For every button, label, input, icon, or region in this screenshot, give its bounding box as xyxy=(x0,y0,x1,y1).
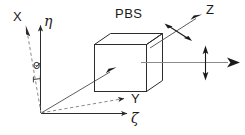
z-axis-label: Z xyxy=(206,3,214,16)
transmitted-beam-arrowhead xyxy=(227,58,240,68)
rotated-frame-axes xyxy=(41,26,128,114)
input-beam-arrowhead xyxy=(106,67,117,73)
x-axis-label: X xyxy=(13,10,22,23)
x-axis-line xyxy=(27,32,41,113)
x-axis-arrowhead xyxy=(26,26,31,37)
reflected-beam-arrowhead xyxy=(191,15,203,20)
transmitted-beam xyxy=(141,46,240,81)
pbs-coordinate-diagram: PBS X η Θ Y ζ Z xyxy=(0,0,245,135)
pbs-label: PBS xyxy=(115,7,143,20)
eta-axis-label: η xyxy=(44,14,52,28)
y-axis-label: Y xyxy=(131,92,140,105)
polarization-arrow-reflected xyxy=(165,23,193,41)
input-beam xyxy=(42,67,117,112)
zeta-axis-label: ζ xyxy=(131,111,139,125)
cube-front-face xyxy=(95,45,147,92)
theta-angle-label: Θ xyxy=(33,62,40,71)
cube-top-face xyxy=(95,34,163,45)
reflected-beam xyxy=(150,15,202,49)
